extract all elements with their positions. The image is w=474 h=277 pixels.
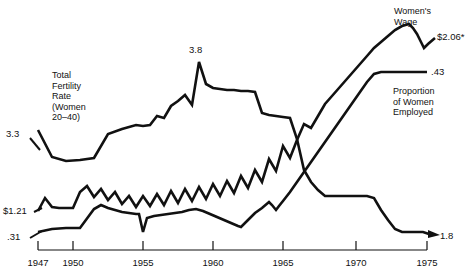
annotation-wage-end-2-06: $2.06* [437,31,464,42]
x-tick-label-1965: 1965 [263,257,303,268]
fertility-start-pointer [30,138,40,150]
annotation-proportion-end-43: .43 [431,66,444,77]
fertility-end-pointer [428,230,440,238]
annotation-fertility-end-1-8: 1.8 [440,230,453,241]
x-axis-ticks [38,241,427,250]
annotation-wage-start-1-21: $1.21 [3,205,27,216]
annotation-fertility-peak-3-8: 3.8 [189,44,202,55]
annotation-fertility-start-3-3: 3.3 [6,128,19,139]
x-tick-label-1960: 1960 [193,257,233,268]
x-tick-label-1955: 1955 [123,257,163,268]
series-label-womens-wage: Women's Wage [394,6,431,27]
series-label-proportion-women-employed: Proportion of Women Employed [393,86,435,118]
series-line-womens-wage [38,24,435,211]
chart-svg [0,0,474,277]
x-tick-label-1975: 1975 [407,257,447,268]
chart-canvas: 1947 1950 1955 1960 1965 1970 1975 Total… [0,0,474,277]
annotation-proportion-start-31: .31 [7,231,20,242]
x-tick-label-1947: 1947 [18,257,58,268]
proportion-start-pointer [30,231,42,238]
x-tick-label-1950: 1950 [53,257,93,268]
x-tick-label-1970: 1970 [336,257,376,268]
series-label-total-fertility-rate: Total Fertility Rate (Women 20–40) [52,70,86,123]
